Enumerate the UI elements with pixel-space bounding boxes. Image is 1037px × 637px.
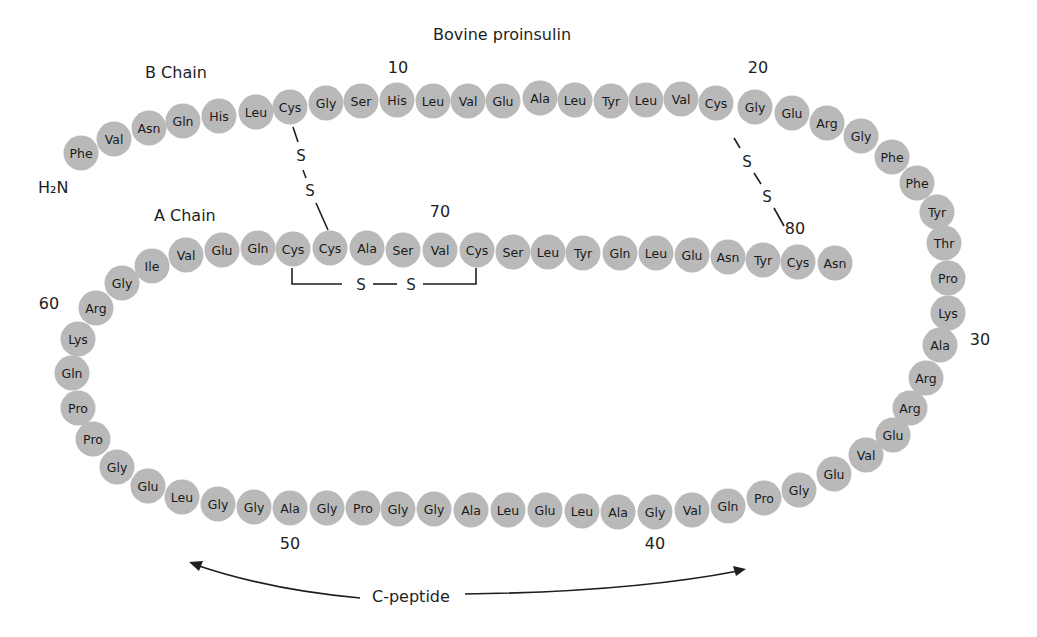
residue-label: Cys bbox=[279, 100, 302, 115]
residue-label: Tyr bbox=[573, 246, 593, 261]
residue-6: Leu bbox=[239, 95, 274, 130]
residue-label: Arg bbox=[816, 116, 837, 131]
residue-label: Leu bbox=[571, 504, 593, 519]
residue-label: Lys bbox=[68, 332, 88, 347]
svg-text:S: S bbox=[406, 276, 416, 294]
residue-36: Gly bbox=[782, 473, 817, 508]
residue-17: Leu bbox=[629, 83, 664, 118]
residue-label: Thr bbox=[933, 236, 956, 251]
residue-label: Lys bbox=[938, 306, 958, 321]
residue-60: Arg bbox=[79, 291, 114, 326]
residue-64: Glu bbox=[205, 233, 240, 268]
residue-22: Arg bbox=[810, 106, 845, 141]
residue-70: Val bbox=[423, 233, 458, 268]
residue-59: Lys bbox=[61, 322, 96, 357]
residue-label: Ala bbox=[930, 338, 950, 353]
residue-39: Val bbox=[675, 493, 710, 528]
residue-label: Val bbox=[459, 94, 478, 109]
b-chain-label: B Chain bbox=[145, 63, 207, 82]
residue-label: Cys bbox=[466, 243, 489, 258]
residue-label: Leu bbox=[537, 245, 559, 260]
residue-79: Tyr bbox=[746, 243, 781, 278]
residue-label: Gln bbox=[61, 366, 82, 381]
residue-44: Leu bbox=[491, 493, 526, 528]
position-marker-10: 10 bbox=[388, 58, 408, 77]
residue-label: Leu bbox=[245, 105, 267, 120]
residue-label: Gln bbox=[172, 114, 193, 129]
residue-label: Val bbox=[105, 132, 124, 147]
residue-37: Pro bbox=[747, 481, 782, 516]
residue-56: Pro bbox=[76, 422, 111, 457]
residue-19: Cys bbox=[699, 86, 734, 121]
residue-65: Gln bbox=[241, 231, 276, 266]
residue-label: Asn bbox=[717, 250, 740, 265]
residue-label: Pro bbox=[68, 401, 88, 416]
residue-18: Val bbox=[664, 82, 699, 117]
residue-54: Glu bbox=[131, 469, 166, 504]
residue-label: Val bbox=[857, 448, 876, 463]
residue-9: Ser bbox=[344, 84, 379, 119]
disulfide-bond-66-71: S S bbox=[292, 268, 476, 294]
residue-13: Glu bbox=[486, 84, 521, 119]
residue-74: Tyr bbox=[566, 236, 601, 271]
a-chain-label: A Chain bbox=[154, 206, 216, 225]
residue-label: Glu bbox=[781, 106, 802, 121]
residue-58: Gln bbox=[55, 356, 90, 391]
residue-label: Ile bbox=[145, 259, 160, 274]
disulfide-bond-7-67: S S bbox=[293, 127, 328, 230]
proinsulin-diagram: Bovine proinsulin B Chain A Chain H₂N S … bbox=[0, 0, 1037, 637]
residue-76: Leu bbox=[639, 236, 674, 271]
residue-label: Gln bbox=[609, 246, 630, 261]
residue-label: Phe bbox=[905, 176, 928, 191]
residue-7: Cys bbox=[273, 90, 308, 125]
residue-67: Cys bbox=[313, 231, 348, 266]
residue-label: Tyr bbox=[927, 205, 947, 220]
residue-label: Asn bbox=[824, 256, 847, 271]
residue-label: Pro bbox=[754, 491, 774, 506]
residue-label: Arg bbox=[85, 301, 106, 316]
residue-5: His bbox=[202, 99, 237, 134]
residue-35: Glu bbox=[817, 457, 852, 492]
residue-label: Glu bbox=[211, 243, 232, 258]
position-marker-40: 40 bbox=[645, 534, 665, 553]
residue-47: Gly bbox=[381, 492, 416, 527]
residue-28: Pro bbox=[931, 261, 966, 296]
position-marker-30: 30 bbox=[970, 330, 990, 349]
residue-label: Gly bbox=[424, 502, 445, 517]
residue-51: Gly bbox=[237, 490, 272, 525]
residue-label: Leu bbox=[422, 94, 444, 109]
residue-label: Ala bbox=[280, 501, 300, 516]
c-peptide-annotation: C-peptide bbox=[189, 561, 746, 606]
svg-text:S: S bbox=[305, 182, 315, 200]
residue-label: His bbox=[209, 109, 228, 124]
residue-72: Ser bbox=[496, 235, 531, 270]
svg-text:S: S bbox=[356, 276, 366, 294]
residue-25: Phe bbox=[900, 166, 935, 201]
residue-label: Cys bbox=[319, 241, 342, 256]
residue-label: Leu bbox=[564, 93, 586, 108]
residue-40: Gly bbox=[638, 495, 673, 530]
residue-label: Pro bbox=[938, 271, 958, 286]
residue-label: Gln bbox=[247, 241, 268, 256]
residue-57: Pro bbox=[61, 391, 96, 426]
residue-2: Val bbox=[97, 122, 132, 157]
residue-label: Gly bbox=[316, 96, 337, 111]
residue-label: Pro bbox=[353, 501, 373, 516]
residue-10: His bbox=[380, 83, 415, 118]
residue-53: Leu bbox=[165, 480, 200, 515]
residue-label: Ala bbox=[461, 503, 481, 518]
residue-label: Leu bbox=[497, 503, 519, 518]
residue-42: Leu bbox=[565, 494, 600, 529]
residue-label: Cys bbox=[705, 96, 728, 111]
residue-8: Gly bbox=[309, 86, 344, 121]
residue-69: Ser bbox=[386, 233, 421, 268]
figure-title: Bovine proinsulin bbox=[433, 25, 571, 44]
residue-label: His bbox=[387, 93, 406, 108]
residue-23: Gly bbox=[844, 119, 879, 154]
residue-27: Thr bbox=[927, 226, 962, 261]
residue-label: Arg bbox=[915, 371, 936, 386]
residue-label: Gly bbox=[851, 129, 872, 144]
svg-text:S: S bbox=[742, 153, 752, 171]
residue-label: Gly bbox=[388, 502, 409, 517]
residue-30: Ala bbox=[923, 328, 958, 363]
